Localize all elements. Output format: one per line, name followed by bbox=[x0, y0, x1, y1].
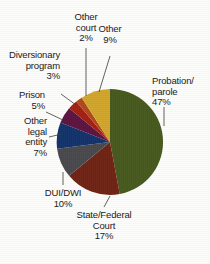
leader-line-other bbox=[99, 56, 110, 92]
leader-line-diversionary-program bbox=[61, 94, 76, 105]
pie-slices bbox=[57, 89, 163, 195]
pie-label-other: Other 9% bbox=[86, 24, 134, 45]
pie-label-other-legal-entity: Other legal entity 7% bbox=[0, 116, 47, 158]
pie-label-probation-parole: Probation/ parole 47% bbox=[152, 76, 210, 108]
pie-label-dui-dwi: DUI/DWI 10% bbox=[18, 188, 108, 209]
pie-chart: Probation/ parole 47% State/Federal Cour… bbox=[0, 0, 210, 264]
pie-label-prison: Prison 5% bbox=[0, 90, 45, 111]
pie-label-state-federal-court: State/Federal Court 17% bbox=[44, 210, 164, 242]
pie-label-diversionary-program: Diversionary program 3% bbox=[0, 50, 60, 82]
leader-line-prison bbox=[46, 112, 63, 120]
